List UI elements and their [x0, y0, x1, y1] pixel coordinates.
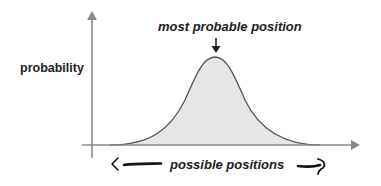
y-axis-arrowhead-icon	[87, 11, 97, 20]
y-axis-label: probability	[20, 62, 84, 75]
peak-label: most probable position	[158, 20, 302, 33]
down-arrow-icon	[212, 38, 221, 53]
x-axis-arrowhead-icon	[351, 140, 360, 150]
curve-fill-area	[110, 57, 320, 145]
left-hand-drawn-arrow-icon	[112, 158, 161, 170]
probability-diagram: most probable position probability possi…	[0, 0, 381, 186]
right-hand-drawn-arrow-icon	[298, 159, 324, 174]
x-axis-label: possible positions	[170, 158, 284, 171]
